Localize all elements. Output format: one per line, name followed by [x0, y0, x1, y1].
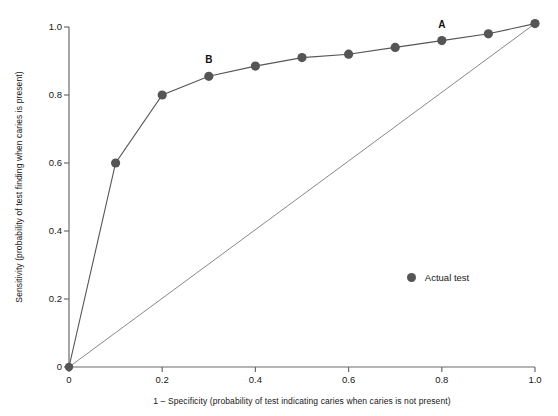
- series-lines: [69, 24, 535, 367]
- x-tick-label-0: 0: [49, 374, 89, 385]
- point-annotation-a: A: [438, 18, 445, 29]
- x-tick-label-4: 0.8: [422, 374, 462, 385]
- point-annotation-b: B: [205, 54, 212, 65]
- plot-area: [0, 0, 558, 416]
- y-tick-label-5: 1.0: [28, 21, 62, 32]
- legend-marker-icon: [407, 273, 416, 282]
- x-tick-label-3: 0.6: [329, 374, 369, 385]
- x-axis-title: 1 – Specificity (probability of test ind…: [69, 396, 535, 406]
- y-tick-label-3: 0.6: [28, 157, 62, 168]
- x-tick-label-2: 0.4: [235, 374, 275, 385]
- y-tick-label-1: 0.2: [28, 293, 62, 304]
- y-axis-tick-labels: 00.20.40.60.81.0: [0, 0, 62, 416]
- legend-label: Actual test: [425, 272, 469, 283]
- y-tick-label-4: 0.8: [28, 89, 62, 100]
- axis-tick-marks: [64, 27, 535, 372]
- x-tick-label-5: 1.0: [515, 374, 555, 385]
- x-tick-label-1: 0.2: [142, 374, 182, 385]
- y-tick-label-2: 0.4: [28, 225, 62, 236]
- roc-chart: Sensitivity (probability of test finding…: [0, 0, 558, 416]
- chart-legend: Actual test: [407, 272, 469, 283]
- y-tick-label-0: 0: [28, 361, 62, 372]
